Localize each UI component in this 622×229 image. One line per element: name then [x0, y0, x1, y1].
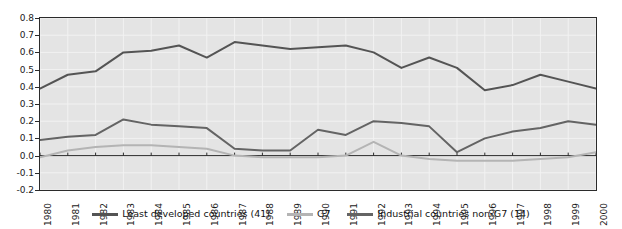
y-tick-label: -0.2	[16, 186, 34, 195]
legend-swatch-icon	[92, 213, 118, 216]
y-tick-label: 0.1	[20, 134, 34, 143]
legend-item[interactable]: G7	[287, 209, 330, 219]
line-chart: 0.80.70.60.50.40.30.20.10.0-0.1-0.2 1980…	[0, 0, 622, 229]
legend-swatch-icon	[347, 213, 373, 216]
y-tick-label: 0.3	[20, 100, 34, 109]
y-tick-label: -0.1	[16, 168, 34, 177]
legend-label: G7	[317, 209, 330, 219]
y-tick-label: 0.8	[20, 14, 34, 23]
legend-label: Industrial countries non-G7 (14)	[377, 209, 529, 219]
chart-legend: Least developed countries (41)G7Industri…	[0, 204, 622, 224]
y-tick-label: 0.2	[20, 117, 34, 126]
legend-item[interactable]: Least developed countries (41)	[92, 209, 270, 219]
y-tick-label: 0.0	[20, 151, 34, 160]
y-axis: 0.80.70.60.50.40.30.20.10.0-0.1-0.2	[0, 17, 34, 191]
legend-swatch-icon	[287, 213, 313, 216]
plot-area	[39, 17, 597, 191]
y-tick-label: 0.5	[20, 65, 34, 74]
legend-label: Least developed countries (41)	[122, 209, 270, 219]
y-tick-label: 0.6	[20, 48, 34, 57]
y-tick-label: 0.7	[20, 31, 34, 40]
y-tick-label: 0.4	[20, 82, 34, 91]
plot-svg	[40, 18, 596, 190]
legend-item[interactable]: Industrial countries non-G7 (14)	[347, 209, 529, 219]
